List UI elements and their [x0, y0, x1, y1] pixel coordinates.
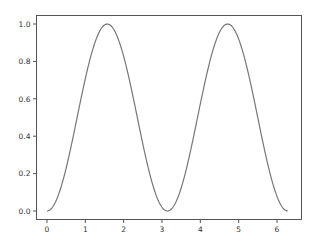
y-tick-label: 0.4 [19, 132, 31, 141]
x-tick-label: 3 [160, 225, 165, 234]
y-tick-label: 0.0 [19, 207, 31, 216]
x-tick-label: 6 [275, 225, 280, 234]
y-tick-label: 0.6 [19, 95, 31, 104]
x-tick-label: 2 [121, 225, 126, 234]
y-tick-label: 0.8 [19, 57, 31, 66]
y-tick-label: 1.0 [19, 20, 31, 29]
y-tick-label: 0.2 [19, 169, 31, 178]
chart-background [0, 0, 316, 249]
x-tick-label: 0 [45, 225, 50, 234]
x-tick-label: 4 [198, 225, 203, 234]
x-tick-label: 1 [83, 225, 88, 234]
line-chart: 0123456 0.00.20.40.60.81.0 [0, 0, 316, 249]
x-tick-label: 5 [236, 225, 241, 234]
